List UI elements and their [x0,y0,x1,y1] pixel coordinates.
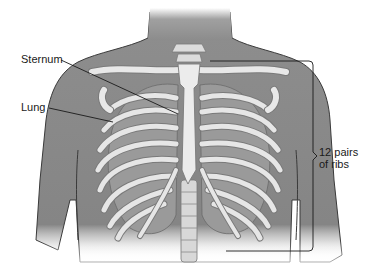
ribs-label-line1: 12 pairs [319,146,358,158]
rib-cage-diagram: Sternum Lung 12 pairs of ribs [0,0,375,277]
anatomy-illustration [0,0,375,277]
sternum-label: Sternum [21,53,63,65]
lung-label: Lung [21,101,45,113]
ribs-label-line2: of ribs [319,158,349,170]
